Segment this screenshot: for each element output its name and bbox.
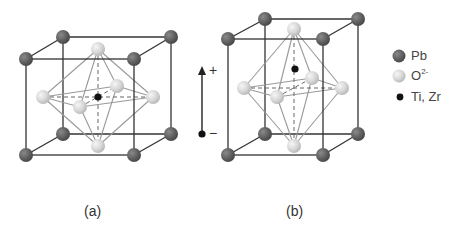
caption-b: (b) bbox=[286, 203, 303, 219]
legend-text: Pb bbox=[411, 48, 427, 63]
pb-atom bbox=[316, 148, 330, 162]
legend-text: Ti, Zr bbox=[411, 89, 441, 104]
pb-atom bbox=[164, 127, 178, 141]
pb-atom bbox=[221, 148, 235, 162]
ti-zr-atom-displaced bbox=[291, 65, 298, 72]
legend-label-ti-zr: Ti, Zr bbox=[411, 89, 441, 104]
arrow-tail-dot bbox=[198, 130, 205, 137]
o-atom bbox=[287, 139, 301, 153]
pb-atom bbox=[19, 52, 33, 66]
o-atom bbox=[110, 79, 124, 93]
legend-superscript: 2- bbox=[421, 67, 428, 76]
pb-atom bbox=[258, 127, 272, 141]
pb-atom bbox=[221, 32, 235, 46]
plus-label: + bbox=[209, 62, 217, 78]
legend-label-pb: Pb bbox=[411, 48, 427, 63]
o-atom bbox=[287, 22, 301, 36]
unit-cell-b bbox=[221, 12, 365, 162]
legend-ti-marker bbox=[397, 94, 404, 101]
legend-text: O bbox=[411, 68, 421, 83]
unit-cell-a bbox=[19, 30, 178, 162]
legend-o-marker bbox=[393, 70, 406, 83]
pb-atom bbox=[19, 148, 33, 162]
pb-atom bbox=[127, 148, 141, 162]
o-atom bbox=[91, 139, 105, 153]
pb-atom bbox=[351, 12, 365, 26]
pb-atom bbox=[258, 12, 272, 26]
minus-label: − bbox=[209, 125, 217, 141]
o-atom bbox=[237, 81, 251, 95]
perovskite-diagram bbox=[0, 0, 458, 226]
pb-atom bbox=[56, 30, 70, 44]
o-atom bbox=[91, 42, 105, 56]
ti-zr-atom bbox=[94, 93, 101, 100]
pb-atom bbox=[127, 52, 141, 66]
pb-atom bbox=[56, 127, 70, 141]
o-atom bbox=[146, 90, 160, 104]
legend-label-o: O2- bbox=[411, 68, 428, 83]
o-atom bbox=[36, 90, 50, 104]
pb-atom bbox=[164, 30, 178, 44]
o-atom bbox=[335, 81, 349, 95]
arrow-head-icon bbox=[198, 66, 206, 75]
o-atom bbox=[73, 100, 87, 114]
polarization-arrow bbox=[198, 66, 206, 138]
legend-markers bbox=[393, 50, 406, 101]
o-atom bbox=[270, 90, 284, 104]
o-atom bbox=[305, 71, 319, 85]
caption-a: (a) bbox=[84, 203, 101, 219]
octahedron-axes-b bbox=[244, 29, 342, 146]
pb-atom bbox=[316, 32, 330, 46]
pb-atom bbox=[351, 127, 365, 141]
legend-pb-marker bbox=[393, 50, 406, 63]
